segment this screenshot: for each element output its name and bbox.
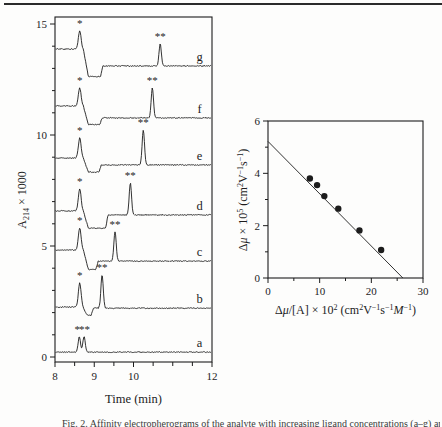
peak-marker: * [77, 74, 83, 86]
right-y-tick-label: 4 [255, 167, 261, 179]
trace-label-f: f [197, 102, 202, 116]
trace-label-a: a [197, 336, 203, 350]
right-y-tick-label: 0 [255, 272, 261, 284]
data-point [307, 175, 313, 181]
data-point [335, 205, 341, 211]
mobility-shift-chart: 02460102030Δμ × 105 (cm2V−1s−1)Δμ/[A] × … [236, 115, 429, 317]
data-point [356, 227, 362, 233]
peak-marker: * [77, 124, 83, 136]
left-x-tick-label: 12 [207, 370, 218, 382]
figure-caption: Fig. 2. Affinity electropherograms of th… [62, 417, 440, 427]
data-point [314, 182, 320, 188]
trace-label-c: c [197, 245, 203, 259]
left-x-tick-label: 10 [128, 370, 140, 382]
right-x-axis-title: Δμ/[A] × 102 (cm2V−1s−1M−1) [275, 303, 416, 317]
trace-c [56, 228, 211, 270]
left-x-tick-label: 8 [52, 370, 58, 382]
left-x-axis-title: Time (min) [105, 392, 162, 406]
data-point [321, 193, 327, 199]
right-y-axis-title: Δμ × 105 (cm2V−1s−1) [236, 149, 250, 252]
electropherogram-chart: 051015891012A214 × 1000Time (min)***a***… [15, 17, 218, 406]
left-x-tick-label: 9 [92, 370, 98, 382]
peak-marker: ** [97, 261, 108, 273]
left-y-tick-label: 5 [42, 240, 48, 252]
peak-marker: ** [155, 30, 166, 42]
data-point [378, 247, 384, 253]
trace-label-d: d [196, 199, 203, 213]
left-y-axis-title: A214 × 1000 [15, 171, 31, 228]
peak-marker: * [77, 17, 83, 29]
trace-a [56, 337, 211, 353]
trace-label-e: e [197, 149, 203, 163]
right-x-tick-label: 20 [366, 285, 378, 297]
left-y-tick-label: 15 [36, 18, 48, 30]
peak-marker: * [77, 214, 83, 226]
trace-g [56, 31, 211, 77]
trace-f [56, 88, 211, 125]
peak-marker: ** [79, 323, 90, 335]
peak-marker: * [77, 175, 83, 187]
trace-label-b: b [196, 292, 202, 306]
trace-e [56, 130, 211, 172]
left-plot-frame [55, 17, 212, 362]
right-plot-frame [268, 121, 423, 278]
left-y-tick-label: 10 [36, 129, 48, 141]
right-x-tick-label: 10 [314, 285, 326, 297]
peak-marker: ** [110, 218, 121, 230]
trace-b [56, 276, 211, 316]
left-y-tick-label: 0 [42, 351, 48, 363]
figure-canvas: 051015891012A214 × 1000Time (min)***a***… [0, 0, 442, 427]
right-x-tick-label: 30 [418, 285, 430, 297]
figure-page: 051015891012A214 × 1000Time (min)***a***… [0, 0, 442, 427]
right-y-tick-label: 6 [255, 115, 261, 127]
trace-label-g: g [196, 50, 203, 64]
right-y-tick-label: 2 [255, 220, 261, 232]
peak-marker: * [77, 269, 83, 281]
peak-marker: ** [125, 169, 136, 181]
right-x-tick-label: 0 [265, 285, 271, 297]
peak-marker: ** [147, 74, 158, 86]
